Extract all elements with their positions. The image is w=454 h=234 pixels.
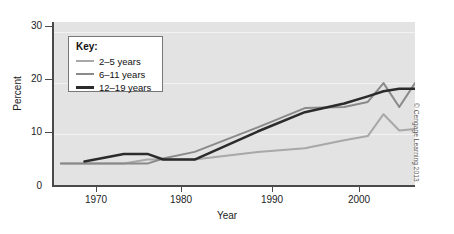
legend-label-2-5-years: 2–5 years xyxy=(99,56,141,67)
x-axis-line xyxy=(52,185,415,187)
x-tick-label-1980: 1980 xyxy=(161,194,201,205)
series-line-2 xyxy=(84,89,415,162)
y-tick-label-20: 20 xyxy=(31,73,42,84)
legend-item-12-19-years: 12–19 years xyxy=(76,81,162,93)
legend-item-2-5-years: 2–5 years xyxy=(76,55,162,67)
y-tick-label-0: 0 xyxy=(36,180,42,191)
x-tick-mark-1970 xyxy=(96,185,97,192)
y-tick-label-10: 10 xyxy=(31,126,42,137)
x-tick-mark-1990 xyxy=(272,185,273,192)
legend-item-6-11-years: 6–11 years xyxy=(76,68,162,80)
y-axis-label: Percent xyxy=(12,64,23,124)
legend-swatch-2-5-years xyxy=(76,60,94,62)
legend-box: Key: 2–5 years 6–11 years 12–19 years xyxy=(68,36,163,92)
y-tick-mark-20 xyxy=(45,79,53,80)
legend-label-12-19-years: 12–19 years xyxy=(99,82,151,93)
y-tick-mark-10 xyxy=(45,132,53,133)
legend-swatch-12-19-years xyxy=(76,86,94,89)
legend-label-6-11-years: 6–11 years xyxy=(99,69,145,80)
x-tick-label-1990: 1990 xyxy=(252,194,292,205)
x-tick-label-2000: 2000 xyxy=(339,194,379,205)
chart-figure: 30 20 10 0 1970 1980 1990 2000 Percent Y… xyxy=(0,0,454,234)
y-tick-label-30: 30 xyxy=(31,20,42,31)
copyright-credit: © Cengage Learning 2013 xyxy=(413,103,420,182)
x-tick-label-1970: 1970 xyxy=(76,194,116,205)
x-tick-mark-2000 xyxy=(359,185,360,192)
x-axis-label: Year xyxy=(0,210,454,221)
legend-swatch-6-11-years xyxy=(76,73,94,75)
legend-title: Key: xyxy=(76,41,162,52)
x-tick-mark-1980 xyxy=(181,185,182,192)
series-line-1 xyxy=(61,83,415,163)
y-tick-mark-30 xyxy=(45,26,53,27)
